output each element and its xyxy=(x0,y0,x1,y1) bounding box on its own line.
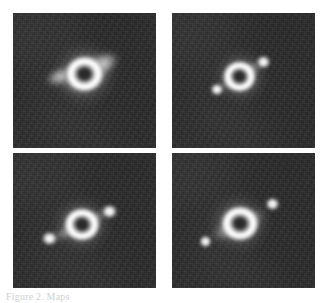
northeast-lobe xyxy=(81,45,125,83)
northeast-knot xyxy=(264,196,281,212)
panel-top-right[interactable] xyxy=(172,13,315,148)
noise-texture xyxy=(13,153,156,288)
background-mottling xyxy=(13,153,156,288)
ring-envelope xyxy=(52,45,120,103)
southwest-lobe xyxy=(41,61,80,91)
northeast-knot xyxy=(255,54,272,70)
northeast-knot xyxy=(100,203,119,221)
diffuse-halo xyxy=(50,39,119,109)
diffuse-halo xyxy=(50,195,113,254)
noise-texture xyxy=(172,13,315,148)
panel-bottom-left[interactable] xyxy=(13,153,156,288)
southwest-knot xyxy=(209,82,225,97)
connecting-bridge xyxy=(44,202,117,248)
connecting-bridge xyxy=(211,54,270,98)
figure-root: Figure 2. Maps xyxy=(0,0,325,303)
central-ring xyxy=(221,59,258,94)
figure-caption: Figure 2. Maps xyxy=(0,291,325,303)
central-ring xyxy=(63,54,106,95)
background-mottling xyxy=(172,153,315,288)
diffuse-halo xyxy=(212,48,269,105)
southwest-knot xyxy=(198,234,214,249)
figure-caption-text: Figure 2. Maps xyxy=(6,291,70,302)
panel-top-left[interactable] xyxy=(13,13,156,148)
background-mottling xyxy=(172,13,315,148)
noise-texture xyxy=(172,153,315,288)
elongated-envelope xyxy=(203,201,272,248)
central-ring xyxy=(62,206,102,244)
central-ring xyxy=(219,204,260,243)
panel-bottom-right[interactable] xyxy=(172,153,315,288)
southwest-knot xyxy=(40,230,59,248)
image-panel-grid xyxy=(13,13,315,288)
noise-texture xyxy=(13,13,156,148)
background-mottling xyxy=(13,13,156,148)
diffuse-halo xyxy=(206,192,272,254)
